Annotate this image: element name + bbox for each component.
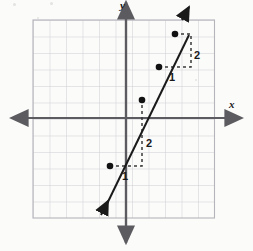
lower-rise-label: 2 [146,137,152,149]
point-marker [172,31,179,38]
point-marker [156,64,163,71]
graph-canvas: x y 1 2 1 2 [0,0,253,251]
point-marker [107,163,114,170]
upper-run-label: 1 [169,71,175,83]
coordinate-graph-figure: x y 1 2 1 2 [0,0,253,251]
lower-run-label: 1 [122,170,128,182]
x-axis-label: x [228,98,235,110]
line-upper-arrow [182,7,189,20]
y-axis-label: y [118,0,125,11]
upper-rise-label: 2 [194,49,200,61]
point-marker [139,97,146,104]
